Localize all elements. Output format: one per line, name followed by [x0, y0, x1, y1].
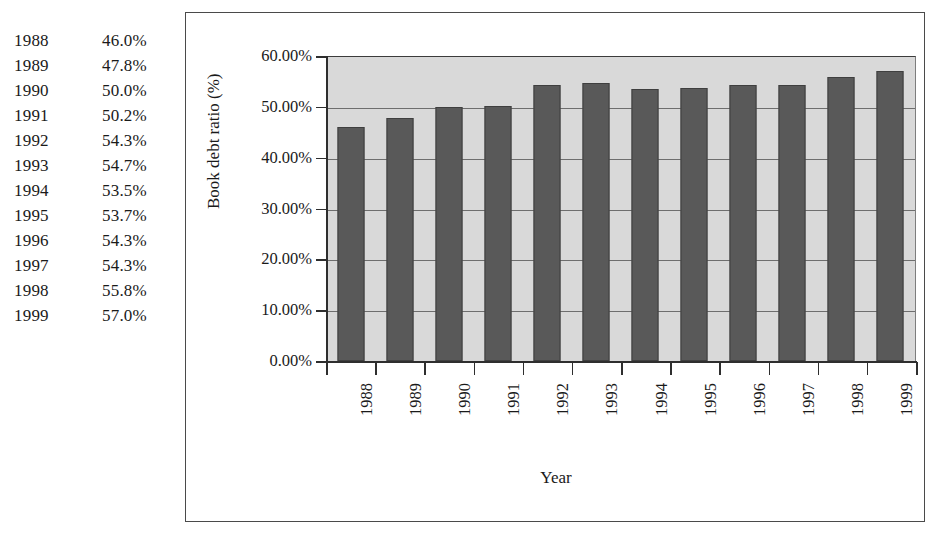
x-axis-tick — [916, 362, 918, 375]
bar-slot — [866, 57, 915, 361]
x-axis-tick-label: 1998 — [850, 383, 867, 416]
x-axis-tick — [670, 362, 672, 375]
bar-slot — [768, 57, 817, 361]
bar — [484, 106, 511, 361]
table-cell-value: 50.0% — [102, 78, 174, 103]
bar — [533, 85, 560, 361]
y-axis-tick — [316, 209, 327, 211]
x-axis-tick-label: 1992 — [555, 383, 572, 416]
bar-slot — [473, 57, 522, 361]
bar — [681, 88, 708, 361]
bar-slot — [620, 57, 669, 361]
table-cell-year: 1992 — [14, 128, 102, 153]
x-axis-tick-label: 1996 — [752, 383, 769, 416]
x-axis-tick-label: 1993 — [604, 383, 621, 416]
y-axis-tick-label: 0.00% — [192, 353, 312, 370]
table-row: 199354.7% — [14, 153, 174, 178]
table-cell-year: 1995 — [14, 203, 102, 228]
table-cell-value: 47.8% — [102, 53, 174, 78]
x-axis-tick-label: 1997 — [801, 383, 818, 416]
table-cell-value: 54.3% — [102, 228, 174, 253]
x-axis-tick-label: 1989 — [408, 383, 425, 416]
table-row: 199254.3% — [14, 128, 174, 153]
y-axis-tick-label: 10.00% — [192, 302, 312, 319]
bar-slot — [670, 57, 719, 361]
bar-series — [326, 57, 915, 361]
table-row: 199654.3% — [14, 228, 174, 253]
bar — [386, 118, 413, 361]
x-axis-tick — [375, 362, 377, 375]
bar-slot — [326, 57, 375, 361]
table-cell-year: 1988 — [14, 28, 102, 53]
bar-slot — [817, 57, 866, 361]
x-axis-tick — [719, 362, 721, 375]
x-axis-tick-label: 1990 — [457, 383, 474, 416]
bar — [779, 85, 806, 361]
table-row: 198947.8% — [14, 53, 174, 78]
table-row: 199150.2% — [14, 103, 174, 128]
table-cell-value: 53.7% — [102, 203, 174, 228]
bar — [828, 77, 855, 361]
table-cell-value: 54.7% — [102, 153, 174, 178]
x-axis-tick — [326, 362, 328, 375]
x-axis-tick-label: 1999 — [899, 383, 916, 416]
y-axis-tick — [316, 259, 327, 261]
bar-slot — [522, 57, 571, 361]
x-axis-tick — [621, 362, 623, 375]
table-cell-year: 1997 — [14, 253, 102, 278]
data-table: 198846.0%198947.8%199050.0%199150.2%1992… — [14, 28, 174, 328]
x-axis-tick-label: 1994 — [654, 383, 671, 416]
table-row: 198846.0% — [14, 28, 174, 53]
y-axis-title: Book debt ratio (%) — [204, 74, 224, 210]
table-row: 199957.0% — [14, 303, 174, 328]
y-axis-tick-label: 60.00% — [192, 48, 312, 65]
table-cell-year: 1996 — [14, 228, 102, 253]
table-cell-value: 50.2% — [102, 103, 174, 128]
table-cell-year: 1993 — [14, 153, 102, 178]
x-axis-tick-label: 1991 — [506, 383, 523, 416]
bar — [337, 127, 364, 361]
table-row: 199453.5% — [14, 178, 174, 203]
x-axis-tick — [523, 362, 525, 375]
bar-slot — [375, 57, 424, 361]
table-cell-value: 55.8% — [102, 278, 174, 303]
table-cell-year: 1991 — [14, 103, 102, 128]
bar — [877, 71, 904, 361]
y-axis-tick-label: 20.00% — [192, 251, 312, 268]
table-cell-value: 54.3% — [102, 128, 174, 153]
table-cell-year: 1989 — [14, 53, 102, 78]
table-row: 199855.8% — [14, 278, 174, 303]
x-axis-tick — [769, 362, 771, 375]
bar-slot — [424, 57, 473, 361]
x-axis-tick — [474, 362, 476, 375]
plot-area — [326, 56, 916, 361]
table-row: 199553.7% — [14, 203, 174, 228]
table-cell-value: 46.0% — [102, 28, 174, 53]
x-axis-tick — [867, 362, 869, 375]
x-axis-tick-label: 1995 — [703, 383, 720, 416]
x-axis-tick — [572, 362, 574, 375]
table-cell-year: 1998 — [14, 278, 102, 303]
x-axis-tick-label: 1988 — [359, 383, 376, 416]
table-row: 199050.0% — [14, 78, 174, 103]
bar — [730, 85, 757, 361]
y-axis-tick — [316, 107, 327, 109]
y-axis-tick — [316, 56, 327, 58]
table-cell-value: 53.5% — [102, 178, 174, 203]
bar — [582, 83, 609, 361]
table-cell-value: 54.3% — [102, 253, 174, 278]
bar — [435, 107, 462, 361]
table-cell-year: 1999 — [14, 303, 102, 328]
y-axis-tick — [316, 310, 327, 312]
x-axis-tick — [424, 362, 426, 375]
bar-slot — [719, 57, 768, 361]
bar — [632, 89, 659, 361]
y-axis-tick — [316, 158, 327, 160]
bar-slot — [571, 57, 620, 361]
table-cell-value: 57.0% — [102, 303, 174, 328]
x-axis-title: Year — [186, 468, 926, 488]
chart-figure-frame: 0.00%10.00%20.00%30.00%40.00%50.00%60.00… — [185, 12, 925, 522]
table-cell-year: 1994 — [14, 178, 102, 203]
table-row: 199754.3% — [14, 253, 174, 278]
x-axis-tick — [818, 362, 820, 375]
